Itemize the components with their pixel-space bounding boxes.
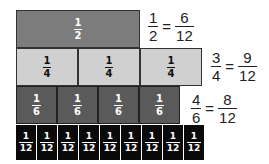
- denominator: 6: [32, 105, 41, 117]
- numerator: 6: [179, 10, 189, 26]
- numerator: 1: [85, 132, 93, 142]
- sixth-bar-row: 16 16 16 16: [16, 86, 180, 124]
- numerator: 1: [148, 132, 156, 142]
- fraction-label: 112: [19, 132, 34, 153]
- equation-four-sixths: 46 = 812: [191, 92, 237, 125]
- sixth-bar: 16: [98, 86, 139, 124]
- denominator: 12: [124, 142, 139, 153]
- fraction-label: 14: [43, 56, 52, 79]
- numerator: 1: [73, 94, 82, 105]
- fraction-label: 112: [166, 132, 181, 153]
- denominator: 12: [175, 26, 194, 43]
- fraction-label: 112: [82, 132, 97, 153]
- denominator: 12: [187, 142, 202, 153]
- equation-three-quarters: 34 = 912: [211, 50, 257, 83]
- twelfth-bar: 112: [142, 125, 162, 160]
- numerator: 1: [127, 132, 135, 142]
- denominator: 6: [191, 108, 201, 125]
- denominator: 12: [103, 142, 118, 153]
- equals-sign: =: [162, 18, 171, 35]
- denominator: 6: [155, 105, 164, 117]
- fraction-label: 16: [114, 94, 123, 117]
- fraction-label: 16: [73, 94, 82, 117]
- twelfth-bar: 112: [58, 125, 78, 160]
- numerator: 1: [74, 18, 83, 29]
- fraction-label: 16: [32, 94, 41, 117]
- numerator: 1: [155, 94, 164, 105]
- denominator: 12: [218, 108, 237, 125]
- numerator: 8: [222, 92, 232, 108]
- fraction-label: 16: [155, 94, 164, 117]
- quarter-bar: 14: [78, 48, 140, 86]
- numerator: 4: [191, 92, 201, 108]
- twelfth-bar: 112: [79, 125, 99, 160]
- denominator: 12: [61, 142, 76, 153]
- fraction-label: 112: [145, 132, 160, 153]
- numerator: 1: [64, 132, 72, 142]
- fraction-label: 14: [167, 56, 176, 79]
- fraction-label: 112: [40, 132, 55, 153]
- twelfth-bar: 112: [37, 125, 57, 160]
- numerator: 1: [148, 10, 158, 26]
- numerator: 1: [32, 94, 41, 105]
- sixth-bar: 16: [57, 86, 98, 124]
- denominator: 2: [148, 26, 158, 43]
- twelfth-bar: 112: [121, 125, 141, 160]
- numerator: 1: [43, 56, 52, 67]
- fraction-label: 112: [124, 132, 139, 153]
- denominator: 6: [73, 105, 82, 117]
- denominator: 4: [105, 67, 114, 79]
- fraction-label: 112: [61, 132, 76, 153]
- quarter-bar: 14: [16, 48, 78, 86]
- numerator: 1: [106, 132, 114, 142]
- fraction-label: 112: [187, 132, 202, 153]
- numerator: 1: [167, 56, 176, 67]
- denominator: 12: [166, 142, 181, 153]
- twelfth-bar: 112: [100, 125, 120, 160]
- fraction-label: 112: [103, 132, 118, 153]
- denominator: 2: [74, 29, 83, 41]
- twelfth-bar: 112: [184, 125, 204, 160]
- equals-sign: =: [205, 100, 214, 117]
- denominator: 6: [114, 105, 123, 117]
- denominator: 4: [43, 67, 52, 79]
- denominator: 4: [211, 66, 221, 83]
- half-bar-row: 1 2: [16, 10, 140, 48]
- half-bar: 1 2: [16, 10, 140, 48]
- twelfth-bar: 112: [163, 125, 183, 160]
- fraction-label: 14: [105, 56, 114, 79]
- numerator: 1: [114, 94, 123, 105]
- denominator: 4: [167, 67, 176, 79]
- quarter-bar: 14: [140, 48, 202, 86]
- numerator: 1: [43, 132, 51, 142]
- fraction-label: 1 2: [74, 18, 83, 41]
- quarter-bar-row: 14 14 14: [16, 48, 202, 86]
- numerator: 1: [22, 132, 30, 142]
- numerator: 1: [169, 132, 177, 142]
- sixth-bar: 16: [16, 86, 57, 124]
- numerator: 3: [211, 50, 221, 66]
- equation-half: 12 = 612: [148, 10, 194, 43]
- numerator: 1: [105, 56, 114, 67]
- sixth-bar: 16: [139, 86, 180, 124]
- denominator: 12: [19, 142, 34, 153]
- numerator: 1: [190, 132, 198, 142]
- denominator: 12: [238, 66, 257, 83]
- denominator: 12: [82, 142, 97, 153]
- numerator: 9: [242, 50, 252, 66]
- twelfth-bar: 112: [16, 125, 36, 160]
- equals-sign: =: [225, 58, 234, 75]
- denominator: 12: [145, 142, 160, 153]
- twelfth-bar-row: 112 112 112 112 112 112 112 112 112: [16, 125, 204, 160]
- denominator: 12: [40, 142, 55, 153]
